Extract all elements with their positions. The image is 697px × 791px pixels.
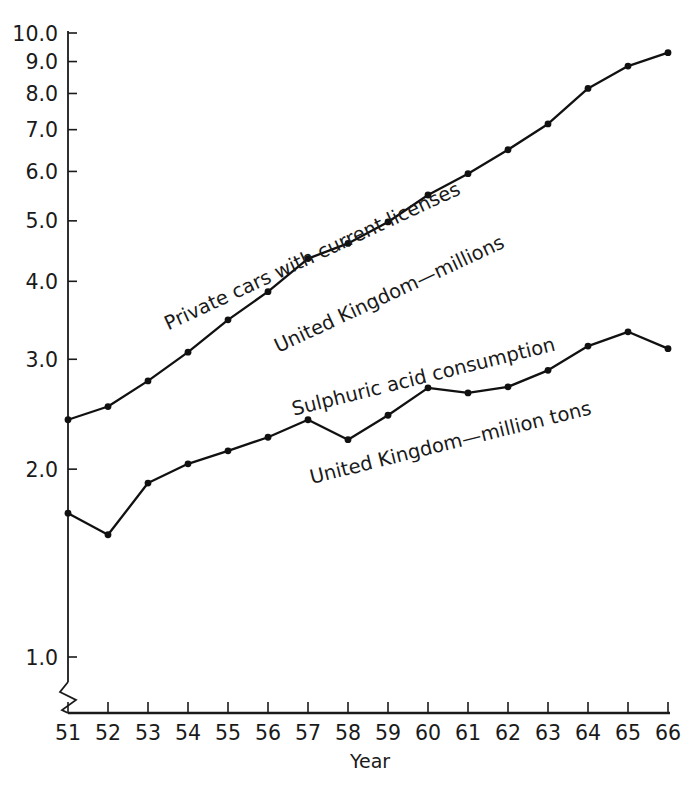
data-point xyxy=(545,367,552,374)
data-point xyxy=(225,316,232,323)
chart-figure: 10.09.08.07.06.05.04.03.02.01.0 51525354… xyxy=(0,0,697,791)
data-point xyxy=(625,328,632,335)
series-annotation-sulphuric: Sulphuric acid consumption United Kingdo… xyxy=(289,333,593,489)
data-point xyxy=(665,49,672,56)
x-tick-label: 55 xyxy=(215,721,241,745)
data-point xyxy=(145,377,152,384)
data-point xyxy=(465,389,472,396)
y-tick-label: 2.0 xyxy=(25,458,58,482)
x-axis-tick-labels: 51525354555657585960616263646566 xyxy=(55,721,681,745)
y-tick-label: 6.0 xyxy=(25,160,58,184)
data-point xyxy=(225,447,232,454)
series-annotation-sulphuric-line2: United Kingdom—million tons xyxy=(307,397,593,489)
data-point xyxy=(665,345,672,352)
y-tick-label: 5.0 xyxy=(25,209,58,233)
x-tick-label: 63 xyxy=(535,721,561,745)
x-tick-label: 61 xyxy=(455,721,481,745)
chart-canvas: 10.09.08.07.06.05.04.03.02.01.0 51525354… xyxy=(0,0,697,791)
data-point xyxy=(385,412,392,419)
series-line-1 xyxy=(68,332,668,535)
data-point xyxy=(345,436,352,443)
y-axis-tick-labels: 10.09.08.07.06.05.04.03.02.01.0 xyxy=(12,22,58,670)
y-tick-label: 8.0 xyxy=(25,82,58,106)
data-point xyxy=(585,85,592,92)
series-annotation-sulphuric-line1: Sulphuric acid consumption xyxy=(289,333,557,421)
data-point xyxy=(185,349,192,356)
data-point xyxy=(505,146,512,153)
data-point xyxy=(265,434,272,441)
data-point xyxy=(65,510,72,517)
y-tick-label: 3.0 xyxy=(25,348,58,372)
y-tick-label: 9.0 xyxy=(25,50,58,74)
data-point xyxy=(465,170,472,177)
data-point xyxy=(625,63,632,70)
x-tick-label: 56 xyxy=(255,721,281,745)
x-tick-label: 66 xyxy=(655,721,681,745)
data-point xyxy=(65,416,72,423)
data-point xyxy=(505,383,512,390)
data-point xyxy=(185,460,192,467)
x-tick-label: 51 xyxy=(55,721,81,745)
x-tick-label: 65 xyxy=(615,721,641,745)
y-tick-label: 10.0 xyxy=(12,22,58,46)
x-tick-label: 57 xyxy=(295,721,321,745)
x-axis-title: Year xyxy=(349,750,390,772)
data-point xyxy=(105,531,112,538)
y-tick-label: 4.0 xyxy=(25,270,58,294)
data-point xyxy=(105,403,112,410)
data-point xyxy=(145,480,152,487)
y-tick-label: 7.0 xyxy=(25,118,58,142)
x-tick-label: 60 xyxy=(415,721,441,745)
x-tick-label: 52 xyxy=(95,721,121,745)
data-point xyxy=(545,121,552,128)
x-tick-label: 53 xyxy=(135,721,161,745)
x-tick-label: 59 xyxy=(375,721,401,745)
x-tick-label: 54 xyxy=(175,721,201,745)
series-annotation-cars-line1: Private cars with current licenses xyxy=(161,177,464,335)
data-point xyxy=(585,343,592,350)
y-axis-ticks xyxy=(68,33,77,657)
x-tick-label: 62 xyxy=(495,721,521,745)
x-axis-ticks xyxy=(68,702,668,713)
y-tick-label: 1.0 xyxy=(25,646,58,670)
x-tick-label: 64 xyxy=(575,721,601,745)
series-annotation-cars: Private cars with current licenses Unite… xyxy=(161,177,508,357)
x-tick-label: 58 xyxy=(335,721,361,745)
